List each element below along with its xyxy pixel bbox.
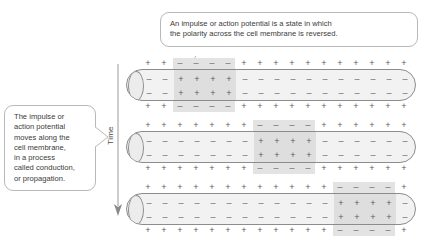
minus-symbol: –	[240, 86, 250, 100]
minus-symbol: –	[256, 210, 266, 224]
plus-symbol: +	[384, 196, 394, 210]
plus-symbol: +	[383, 58, 393, 69]
plus-symbol: +	[352, 210, 362, 224]
plus-symbol: +	[159, 58, 169, 69]
plus-symbol: +	[383, 120, 393, 131]
plus-symbol: +	[288, 148, 298, 162]
inside-charges-lower-row: ––––––––––––++++–	[127, 210, 416, 224]
minus-symbol: –	[336, 86, 346, 100]
minus-symbol: –	[160, 86, 170, 100]
plus-symbol: +	[383, 163, 393, 174]
minus-symbol: –	[335, 182, 345, 193]
plus-symbol: +	[159, 101, 169, 112]
plus-symbol: +	[175, 225, 185, 236]
minus-symbol: –	[320, 86, 330, 100]
plus-symbol: +	[192, 72, 202, 86]
plus-symbol: +	[319, 163, 329, 174]
minus-symbol: –	[303, 163, 313, 174]
callout-left-line-4: cell membrane,	[14, 143, 87, 153]
minus-symbol: –	[160, 134, 170, 148]
minus-symbol: –	[224, 210, 234, 224]
plus-symbol: +	[143, 58, 153, 69]
minus-symbol: –	[400, 148, 410, 162]
outside-charges-bottom-row: ++––––+++++++++++	[126, 101, 416, 112]
time-axis-label: Time	[106, 126, 115, 144]
minus-symbol: –	[192, 148, 202, 162]
callout-top-line-1: An impulse or action potential is a stat…	[170, 19, 409, 29]
plus-symbol: +	[303, 182, 313, 193]
minus-symbol: –	[400, 196, 410, 210]
axon-stage-3-inner: ++++++++++++––––+––––––––––––++++–––––––…	[126, 182, 416, 236]
plus-symbol: +	[159, 163, 169, 174]
plus-symbol: +	[191, 163, 201, 174]
minus-symbol: –	[400, 134, 410, 148]
minus-symbol: –	[288, 210, 298, 224]
minus-symbol: –	[192, 196, 202, 210]
plus-symbol: +	[224, 72, 234, 86]
plus-symbol: +	[159, 120, 169, 131]
minus-symbol: –	[160, 72, 170, 86]
minus-symbol: –	[160, 210, 170, 224]
plus-symbol: +	[303, 101, 313, 112]
callout-left-line-3: moves along the	[14, 133, 87, 143]
minus-symbol: –	[207, 58, 217, 69]
minus-symbol: –	[144, 196, 154, 210]
minus-symbol: –	[352, 148, 362, 162]
plus-symbol: +	[367, 163, 377, 174]
plus-symbol: +	[351, 120, 361, 131]
outside-charges-bottom-row: +++++++––––++++++	[126, 163, 416, 174]
minus-symbol: –	[272, 86, 282, 100]
minus-symbol: –	[160, 196, 170, 210]
plus-symbol: +	[224, 86, 234, 100]
minus-symbol: –	[240, 148, 250, 162]
plus-symbol: +	[255, 101, 265, 112]
plus-symbol: +	[223, 120, 233, 131]
minus-symbol: –	[352, 72, 362, 86]
minus-symbol: –	[144, 148, 154, 162]
minus-symbol: –	[384, 86, 394, 100]
plus-symbol: +	[207, 163, 217, 174]
plus-symbol: +	[272, 148, 282, 162]
plus-symbol: +	[176, 86, 186, 100]
minus-symbol: –	[255, 163, 265, 174]
outside-charges-top-row: ++++++++++++––––+	[126, 182, 416, 193]
inside-charges-lower-row: –––––––++++––––––	[127, 148, 416, 162]
minus-symbol: –	[303, 120, 313, 131]
axon-membrane-cylinder: ––++++–––––––––––––++++–––––––––––	[126, 69, 416, 101]
minus-symbol: –	[352, 86, 362, 100]
plus-symbol: +	[368, 196, 378, 210]
minus-symbol: –	[160, 148, 170, 162]
plus-symbol: +	[383, 101, 393, 112]
minus-symbol: –	[287, 163, 297, 174]
plus-symbol: +	[159, 182, 169, 193]
plus-symbol: +	[287, 182, 297, 193]
minus-symbol: –	[175, 101, 185, 112]
minus-symbol: –	[240, 196, 250, 210]
minus-symbol: –	[223, 58, 233, 69]
plus-symbol: +	[287, 225, 297, 236]
minus-symbol: –	[191, 58, 201, 69]
plus-symbol: +	[175, 163, 185, 174]
plus-symbol: +	[351, 58, 361, 69]
plus-symbol: +	[223, 163, 233, 174]
plus-symbol: +	[384, 210, 394, 224]
plus-symbol: +	[352, 196, 362, 210]
plus-symbol: +	[271, 182, 281, 193]
plus-symbol: +	[399, 182, 409, 193]
plus-symbol: +	[192, 86, 202, 100]
plus-symbol: +	[239, 163, 249, 174]
minus-symbol: –	[176, 134, 186, 148]
minus-symbol: –	[207, 101, 217, 112]
plus-symbol: +	[143, 182, 153, 193]
impulse-definition-callout: An impulse or action potential is a stat…	[160, 12, 418, 47]
minus-symbol: –	[336, 72, 346, 86]
axon-end-cap	[128, 133, 144, 163]
minus-symbol: –	[400, 210, 410, 224]
minus-symbol: –	[191, 101, 201, 112]
minus-symbol: –	[384, 72, 394, 86]
plus-symbol: +	[304, 134, 314, 148]
plus-symbol: +	[223, 225, 233, 236]
minus-symbol: –	[208, 148, 218, 162]
axon-end-cap	[128, 195, 144, 225]
plus-symbol: +	[191, 120, 201, 131]
